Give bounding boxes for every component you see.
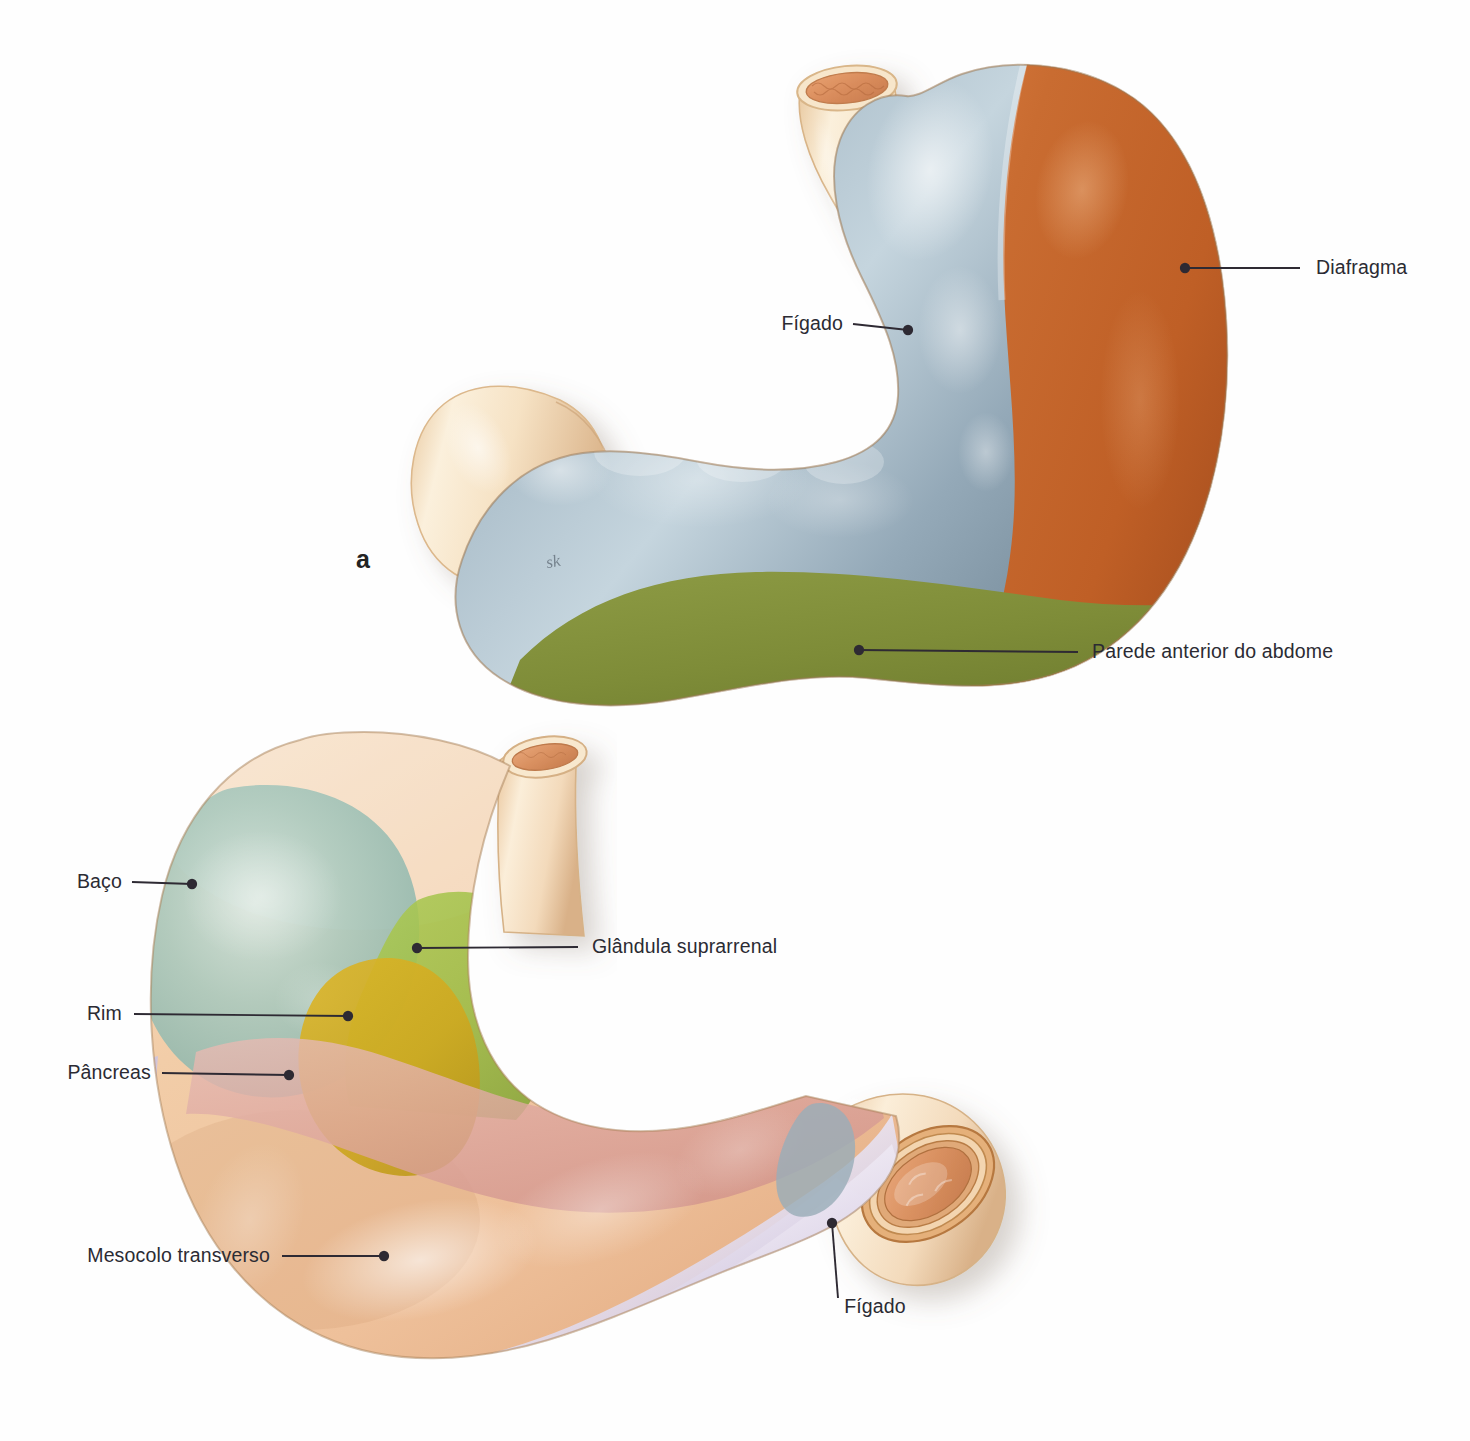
label-parede-anterior-do-abdome: Parede anterior do abdome (1092, 642, 1333, 662)
label-pancreas: Pâncreas (67, 1063, 151, 1083)
label-baco: Baço (77, 872, 122, 892)
label-mesocolo-transverso: Mesocolo transverso (87, 1246, 270, 1266)
esophagus-b (498, 731, 589, 936)
panel-a: Diafragma Fígado Parede anterior do abdo… (0, 0, 1470, 720)
leader-dot-mesocolo (380, 1252, 388, 1260)
label-figado-a: Fígado (781, 314, 843, 334)
label-rim: Rim (87, 1004, 122, 1024)
leader-dot-glandula (413, 944, 421, 952)
panel-b: Baço Glândula suprarrenal Rim Pâncreas M… (0, 700, 1470, 1441)
panel-letter-a: a (356, 545, 370, 574)
leader-dot-baco (188, 880, 196, 888)
anatomy-figure: Diafragma Fígado Parede anterior do abdo… (0, 0, 1470, 1441)
panel-a-illustration (0, 0, 1470, 720)
panel-b-illustration (0, 700, 1470, 1441)
label-diafragma: Diafragma (1316, 258, 1407, 278)
leader-dot-parede (855, 646, 863, 654)
leader-glandula (417, 947, 578, 948)
leader-dot-pancreas (285, 1071, 293, 1079)
leader-dot-figado (904, 326, 912, 334)
leader-dot-diafragma (1181, 264, 1189, 272)
label-figado-b: Fígado (844, 1297, 906, 1317)
leader-figado-b (832, 1223, 838, 1298)
leader-dot-rim (344, 1012, 352, 1020)
leader-dot-figado-b (828, 1219, 836, 1227)
label-glandula-suprarrenal: Glândula suprarrenal (592, 937, 777, 957)
